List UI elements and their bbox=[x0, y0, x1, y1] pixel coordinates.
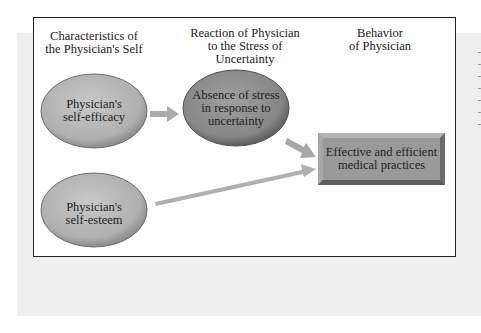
arrow-efficacy-to-stress bbox=[150, 106, 179, 122]
label-self-esteem: Physician's self-esteem bbox=[44, 201, 144, 227]
label-self-efficacy: Physician's self-efficacy bbox=[44, 98, 144, 124]
arrow-esteem-to-practices bbox=[155, 164, 316, 206]
arrow-stress-to-practices bbox=[285, 138, 316, 158]
label-effective-practices: Effective and efficient medical practice… bbox=[323, 146, 440, 172]
label-absence-of-stress: Absence of stress in response to uncerta… bbox=[184, 89, 288, 128]
